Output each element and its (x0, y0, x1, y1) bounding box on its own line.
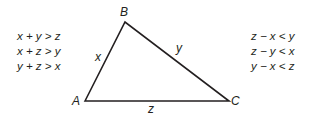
vertex-label-c: C (231, 94, 240, 108)
inequality-4: z − x < y (251, 29, 294, 44)
inequality-5: z − y < x (251, 44, 294, 59)
side-label-x: x (95, 50, 101, 64)
inequality-2: x + z > y (17, 44, 60, 59)
inequality-1: x + y > z (17, 29, 60, 44)
left-inequalities: x + y > z x + z > y y + z > x (17, 29, 60, 74)
vertex-label-b: B (120, 5, 128, 19)
inequality-3: y + z > x (17, 59, 60, 74)
side-label-y: y (176, 41, 182, 55)
vertex-label-a: A (72, 94, 80, 108)
right-inequalities: z − x < y z − y < x y − x < z (251, 29, 294, 74)
inequality-6: y − x < z (251, 59, 294, 74)
side-label-z: z (148, 102, 154, 116)
triangle-abc (85, 22, 229, 101)
